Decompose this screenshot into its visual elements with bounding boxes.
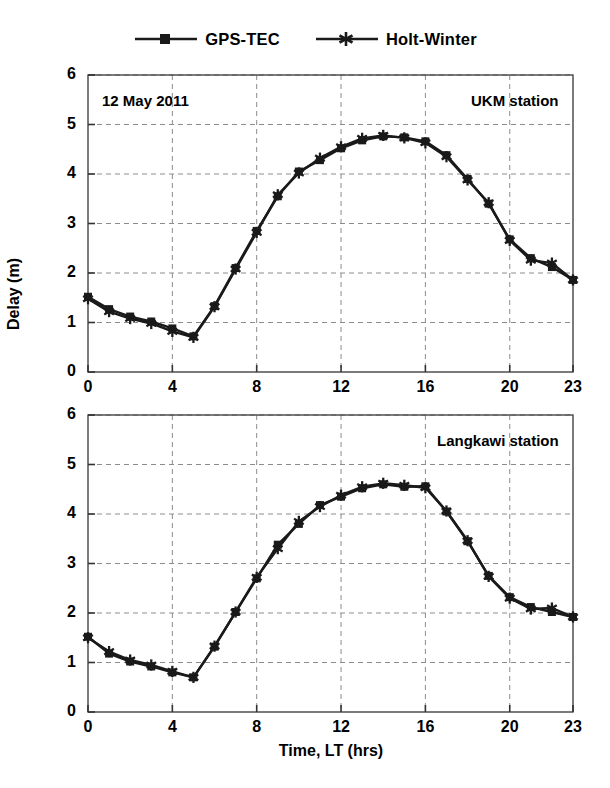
y-tick-label: 4 (44, 164, 76, 182)
series-line-holt-winter (88, 135, 573, 337)
y-tick-label: 2 (44, 603, 76, 621)
y-tick-label: 2 (44, 263, 76, 281)
x-tick-label: 20 (490, 718, 530, 736)
x-tick-label: 4 (152, 378, 192, 396)
y-tick-label: 5 (44, 455, 76, 473)
x-tick-label: 16 (405, 378, 445, 396)
x-tick-label: 23 (553, 378, 593, 396)
figure-root: GPS-TEC Holt-Winter Delay (m) Time, LT (… (0, 0, 610, 788)
series-line-gps-tec (88, 484, 573, 677)
y-tick-label: 4 (44, 504, 76, 522)
y-tick-label: 6 (44, 405, 76, 423)
panel-annotation-date: 12 May 2011 (102, 92, 189, 109)
panel-annotation-station: UKM station (471, 92, 559, 109)
langkawi-panel (83, 415, 578, 712)
x-tick-label: 0 (68, 378, 108, 396)
x-tick-label: 12 (321, 718, 361, 736)
y-tick-label: 3 (44, 554, 76, 572)
x-tick-label: 16 (405, 718, 445, 736)
series-line-gps-tec (88, 136, 573, 336)
ukm-panel (83, 75, 578, 372)
x-tick-label: 8 (237, 378, 277, 396)
y-tick-label: 3 (44, 214, 76, 232)
y-tick-label: 5 (44, 115, 76, 133)
x-tick-label: 8 (237, 718, 277, 736)
x-axis-title: Time, LT (hrs) (88, 742, 574, 760)
series-line-holt-winter (88, 483, 573, 677)
x-tick-label: 0 (68, 718, 108, 736)
x-tick-label: 4 (152, 718, 192, 736)
y-tick-label: 6 (44, 65, 76, 83)
panel-annotation-station: Langkawi station (437, 432, 559, 449)
y-tick-label: 1 (44, 653, 76, 671)
x-tick-label: 20 (490, 378, 530, 396)
x-tick-label: 12 (321, 378, 361, 396)
y-tick-label: 1 (44, 313, 76, 331)
x-tick-label: 23 (553, 718, 593, 736)
